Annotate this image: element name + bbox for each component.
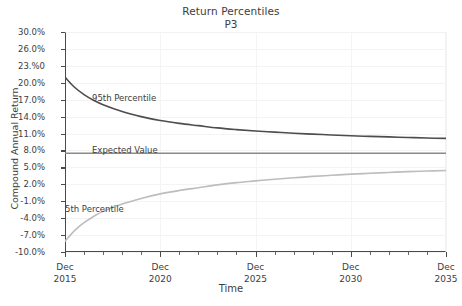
x-tick-mark-minor xyxy=(122,252,123,255)
x-tick-label-year: 2015 xyxy=(35,274,95,286)
x-tick-label-year: 2030 xyxy=(321,274,381,286)
y-tick-mark xyxy=(61,235,65,236)
x-tick-mark xyxy=(351,252,352,257)
y-tick-mark xyxy=(61,184,65,185)
y-tick-mark xyxy=(61,49,65,50)
y-tick-mark xyxy=(61,218,65,219)
y-tick-mark xyxy=(61,150,65,151)
x-tick-label: Dec2025 xyxy=(226,262,286,285)
x-tick-label-month: Dec xyxy=(416,262,462,274)
y-tick-label: 11.0% xyxy=(0,129,45,139)
x-tick-mark-minor xyxy=(84,252,85,255)
x-tick-label: Dec2035 xyxy=(416,262,462,285)
x-tick-mark-minor xyxy=(217,252,218,255)
y-tick-mark xyxy=(61,32,65,33)
plot-area: 30.0%26.0%23.%020.0%17.0%14.0%11.0%8.0%5… xyxy=(65,32,446,252)
x-tick-mark-minor xyxy=(294,252,295,255)
series-layer xyxy=(65,32,446,252)
y-tick-mark xyxy=(61,134,65,135)
series-label-95th-percentile: 95th Percentile xyxy=(92,93,156,103)
x-tick-mark xyxy=(160,252,161,257)
series-label-expected-value: Expected Value xyxy=(92,145,158,155)
x-tick-mark-minor xyxy=(236,252,237,255)
y-tick-label: -10.0% xyxy=(0,247,45,257)
y-tick-mark xyxy=(61,83,65,84)
x-tick-label-month: Dec xyxy=(130,262,190,274)
x-tick-label: Dec2030 xyxy=(321,262,381,285)
x-tick-mark-minor xyxy=(103,252,104,255)
x-tick-label-month: Dec xyxy=(226,262,286,274)
y-tick-label: 2.0% xyxy=(0,179,45,189)
x-tick-mark-minor xyxy=(408,252,409,255)
y-tick-label: 20.0% xyxy=(0,78,45,88)
x-tick-mark-minor xyxy=(370,252,371,255)
x-tick-label-month: Dec xyxy=(35,262,95,274)
x-tick-label-year: 2035 xyxy=(416,274,462,286)
y-tick-label: 30.0% xyxy=(0,27,45,37)
y-tick-mark xyxy=(61,100,65,101)
x-tick-mark-minor xyxy=(198,252,199,255)
y-tick-label: -1.0% xyxy=(0,196,45,206)
chart-title: Return Percentiles xyxy=(0,5,462,17)
y-tick-label: 17.0% xyxy=(0,95,45,105)
y-tick-mark xyxy=(61,201,65,202)
y-tick-label: 5.0% xyxy=(0,162,45,172)
x-tick-label: Dec2015 xyxy=(35,262,95,285)
series-line-95th-percentile xyxy=(65,77,446,138)
x-tick-label: Dec2020 xyxy=(130,262,190,285)
x-tick-mark xyxy=(65,252,66,257)
y-tick-mark xyxy=(61,66,65,67)
x-tick-label-year: 2020 xyxy=(130,274,190,286)
x-tick-mark-minor xyxy=(313,252,314,255)
y-tick-mark xyxy=(61,117,65,118)
x-tick-mark xyxy=(256,252,257,257)
series-label-5th-percentile: 5th Percentile xyxy=(65,204,124,214)
y-tick-label: 14.0% xyxy=(0,112,45,122)
x-tick-mark-minor xyxy=(179,252,180,255)
y-tick-label: -7.0% xyxy=(0,230,45,240)
y-tick-mark xyxy=(61,167,65,168)
x-tick-mark-minor xyxy=(427,252,428,255)
x-tick-label-month: Dec xyxy=(321,262,381,274)
y-tick-label: 8.0% xyxy=(0,145,45,155)
x-tick-mark-minor xyxy=(332,252,333,255)
gridline-vertical xyxy=(446,32,447,252)
x-tick-label-year: 2025 xyxy=(226,274,286,286)
y-tick-label: -4.0% xyxy=(0,213,45,223)
x-tick-mark-minor xyxy=(141,252,142,255)
x-tick-mark xyxy=(446,252,447,257)
y-tick-label: 26.0% xyxy=(0,44,45,54)
x-tick-mark-minor xyxy=(389,252,390,255)
x-tick-mark-minor xyxy=(275,252,276,255)
y-tick-label: 23.%0 xyxy=(0,61,45,71)
chart-subtitle: P3 xyxy=(0,18,462,30)
